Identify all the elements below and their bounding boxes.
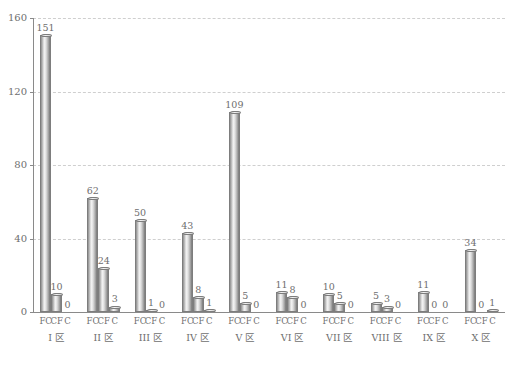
bar-rect[interactable] — [240, 303, 251, 312]
bar-top-cap — [205, 309, 216, 312]
y-tick-label: 0 — [0, 307, 27, 317]
bar-rect[interactable] — [109, 307, 120, 313]
bar-rect[interactable] — [193, 297, 204, 312]
bar-rect[interactable] — [334, 303, 345, 312]
bar-group — [465, 18, 498, 312]
y-tick-label: 120 — [0, 87, 27, 97]
bar-rect[interactable] — [418, 292, 429, 312]
x-series-label-c: C — [102, 316, 128, 326]
y-tick-mark — [30, 18, 33, 19]
bar-top-cap — [230, 111, 241, 114]
x-series-label-c: C — [385, 316, 411, 326]
x-axis-line — [33, 312, 505, 313]
bar-group — [40, 18, 73, 312]
bar-top-cap — [183, 232, 194, 235]
y-tick-mark — [30, 312, 33, 313]
x-series-label-c: C — [338, 316, 364, 326]
bar-top-cap — [335, 302, 346, 305]
bar-rect[interactable] — [51, 294, 62, 312]
bar-top-cap — [488, 309, 499, 312]
bar-rect[interactable] — [382, 307, 393, 313]
bar-rect[interactable] — [276, 292, 287, 312]
bar-top-cap — [136, 219, 147, 222]
bar-group — [276, 18, 309, 312]
bar-rect[interactable] — [465, 250, 476, 312]
bar-top-cap — [88, 197, 99, 200]
x-series-label-c: C — [55, 316, 81, 326]
y-tick-mark — [30, 92, 33, 93]
bar-rect[interactable] — [371, 303, 382, 312]
bar-top-cap — [110, 306, 121, 309]
bar-rect[interactable] — [146, 310, 157, 312]
y-tick-label: 80 — [0, 160, 27, 170]
bar-top-cap — [41, 34, 52, 37]
bar-rect[interactable] — [229, 112, 240, 312]
bar-top-cap — [372, 302, 383, 305]
bar-rect[interactable] — [204, 310, 215, 312]
x-series-label-c: C — [196, 316, 222, 326]
bar-top-cap — [52, 293, 63, 296]
bar-top-cap — [194, 296, 205, 299]
bar-rect[interactable] — [287, 297, 298, 312]
bar-group — [135, 18, 168, 312]
bar-top-cap — [277, 291, 288, 294]
bar-rect[interactable] — [182, 233, 193, 312]
bar-group — [182, 18, 215, 312]
x-series-label-c: C — [432, 316, 458, 326]
x-series-label-c: C — [243, 316, 269, 326]
x-series-label-c: C — [291, 316, 317, 326]
bar-top-cap — [99, 267, 110, 270]
y-tick-label: 40 — [0, 234, 27, 244]
bar-group — [87, 18, 120, 312]
bar-group — [323, 18, 356, 312]
bar-top-cap — [288, 296, 299, 299]
bar-chart: 04080120160 1511006224350104381109501180… — [0, 0, 517, 368]
bar-rect[interactable] — [98, 268, 109, 312]
bar-rect[interactable] — [135, 220, 146, 312]
bar-top-cap — [147, 309, 158, 312]
bar-top-cap — [466, 249, 477, 252]
bar-top-cap — [419, 291, 430, 294]
bar-top-cap — [383, 306, 394, 309]
x-group-label: X 区 — [451, 332, 511, 343]
bar-top-cap — [324, 293, 335, 296]
bar-group — [418, 18, 451, 312]
y-tick-mark — [30, 239, 33, 240]
y-axis-line — [33, 18, 34, 312]
bar-group — [229, 18, 262, 312]
bar-top-cap — [241, 302, 252, 305]
y-tick-mark — [30, 165, 33, 166]
bar-group — [371, 18, 404, 312]
bar-rect[interactable] — [87, 198, 98, 312]
bar-rect[interactable] — [323, 294, 334, 312]
x-series-label-c: C — [479, 316, 505, 326]
x-series-label-c: C — [149, 316, 175, 326]
bar-rect[interactable] — [40, 35, 51, 312]
y-tick-label: 160 — [0, 13, 27, 23]
bar-rect[interactable] — [487, 310, 498, 312]
